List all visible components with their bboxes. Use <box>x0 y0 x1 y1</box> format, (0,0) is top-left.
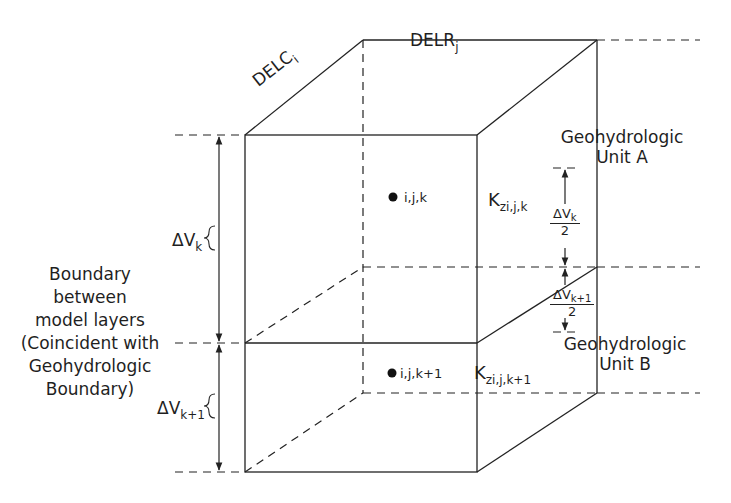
k-upper-label: Kzi,j,k <box>488 190 527 212</box>
delr-label: DELRj <box>410 30 458 52</box>
boundary-description: Boundary between model layers (Coinciden… <box>10 263 170 401</box>
dv-k-label: ΔVk <box>172 230 202 252</box>
node-dot-lower <box>388 369 397 378</box>
node-label-lower: i,j,k+1 <box>400 364 442 384</box>
unit-b-label: Geohydrologic Unit B <box>560 334 690 374</box>
node-dot-upper <box>389 193 398 202</box>
node-label-upper: i,j,k <box>404 188 427 208</box>
cell-block-drawing <box>0 0 731 503</box>
k-lower-label: Kzi,j,k+1 <box>474 363 531 385</box>
unit-a-label: Geohydrologic Unit A <box>557 127 687 167</box>
half-dv-k-fraction: ΔVk 2 <box>550 206 580 238</box>
half-dv-k1-fraction: ΔVk+1 2 <box>550 287 594 319</box>
front-face <box>245 135 477 472</box>
dv-k1-label: ΔVk+1 <box>157 398 205 420</box>
